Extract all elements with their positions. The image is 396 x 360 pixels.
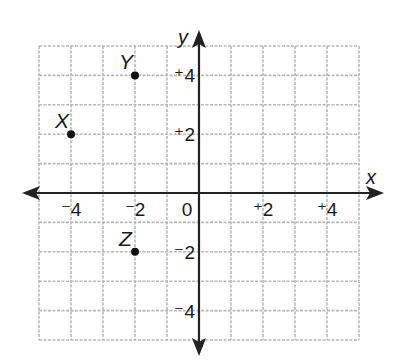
x-axis-label: x bbox=[365, 166, 377, 188]
y-tick-label: ⁺4 bbox=[174, 65, 195, 86]
data-points: XYZ bbox=[54, 50, 139, 255]
x-tick-label: ⁻2 bbox=[125, 199, 146, 220]
x-tick-label: ⁻4 bbox=[61, 199, 82, 220]
y-tick-label: ⁺2 bbox=[174, 124, 195, 145]
point-label: Y bbox=[119, 50, 135, 73]
axes bbox=[22, 30, 384, 356]
y-axis-label: y bbox=[176, 26, 189, 48]
point-label: X bbox=[54, 109, 70, 132]
x-tick-label: ⁺2 bbox=[253, 199, 274, 220]
x-tick-label: 0 bbox=[182, 199, 193, 220]
point-label: Z bbox=[118, 227, 133, 250]
point-marker bbox=[131, 248, 139, 256]
coordinate-plane: x y ⁻4⁻20⁺2⁺4 ⁺4⁺2⁻2⁻4 XYZ bbox=[0, 0, 396, 360]
y-tick-label: ⁻2 bbox=[174, 242, 195, 263]
y-tick-label: ⁻4 bbox=[174, 301, 195, 322]
x-tick-label: ⁺4 bbox=[317, 199, 338, 220]
